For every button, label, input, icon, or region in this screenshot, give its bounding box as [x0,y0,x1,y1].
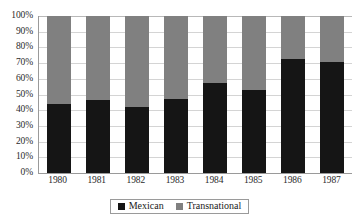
y-tick-label: 20% [16,137,33,147]
bar-group[interactable] [125,16,149,173]
bar-segment-mexican[interactable] [203,83,227,173]
x-tick-label: 1985 [241,176,265,190]
y-axis: 0%10%20%30%40%50%60%70%80%90%100% [0,16,36,173]
y-tick-label: 90% [16,27,33,37]
legend: MexicanTransnational [0,199,359,214]
x-tick-label: 1986 [280,176,304,190]
x-tick-label: 1980 [46,176,70,190]
bar-group[interactable] [320,16,344,173]
bar-segment-mexican[interactable] [242,90,266,173]
bar-segment-transnational[interactable] [164,16,188,99]
bar-group[interactable] [47,16,71,173]
legend-swatch-gray-square [176,203,183,210]
bar-segment-mexican[interactable] [320,62,344,173]
legend-entry[interactable]: Mexican [118,201,164,211]
legend-label: Transnational [187,201,242,211]
bar-segment-transnational[interactable] [47,16,71,104]
bar-segment-mexican[interactable] [47,104,71,173]
y-tick-label: 40% [16,105,33,115]
bar-series-container [39,16,352,173]
bar-group[interactable] [281,16,305,173]
y-tick-label: 70% [16,58,33,68]
bar-segment-transnational[interactable] [242,16,266,90]
y-tick-label: 60% [16,74,33,84]
stacked-bar-chart: 0%10%20%30%40%50%60%70%80%90%100% 198019… [0,0,359,223]
legend-entry[interactable]: Transnational [176,201,242,211]
legend-swatch-black-square [118,203,125,210]
bar-segment-transnational[interactable] [203,16,227,83]
bar-segment-mexican[interactable] [125,107,149,173]
bar-group[interactable] [242,16,266,173]
bar-segment-mexican[interactable] [164,99,188,173]
y-tick-label: 0% [21,168,33,178]
x-tick-label: 1983 [163,176,187,190]
bar-segment-mexican[interactable] [281,59,305,173]
legend-label: Mexican [129,201,164,211]
bar-group[interactable] [86,16,110,173]
bar-segment-transnational[interactable] [86,16,110,100]
bar-segment-mexican[interactable] [86,100,110,173]
legend-box: MexicanTransnational [110,199,250,214]
y-tick-label: 30% [16,121,33,131]
y-tick-label: 10% [16,153,33,163]
y-tick-label: 50% [16,90,33,100]
bar-segment-transnational[interactable] [281,16,305,59]
bar-group[interactable] [164,16,188,173]
x-tick-label: 1981 [85,176,109,190]
bar-segment-transnational[interactable] [320,16,344,62]
y-tick-label: 100% [11,11,33,21]
x-tick-label: 1982 [124,176,148,190]
x-tick-label: 1987 [319,176,343,190]
y-tick-label: 80% [16,43,33,53]
bar-group[interactable] [203,16,227,173]
x-tick-label: 1984 [202,176,226,190]
bar-segment-transnational[interactable] [125,16,149,107]
plot-area [38,16,352,174]
x-axis: 19801981198219831984198519861987 [38,176,351,190]
